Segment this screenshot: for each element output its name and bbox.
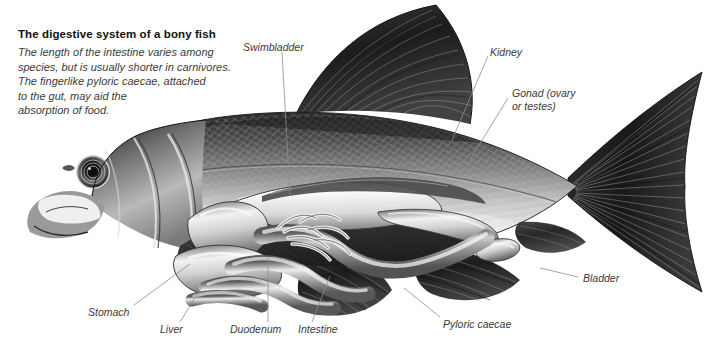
label-swimbladder: Swimbladder — [243, 41, 304, 54]
label-bladder: Bladder — [583, 272, 619, 285]
leader-swimbladder — [282, 52, 290, 196]
figure-description: The length of the intestine varies among… — [18, 45, 248, 118]
label-intestine: Intestine — [298, 323, 338, 336]
label-pyloric-caecae: Pyloric caecae — [443, 318, 511, 331]
leader-intestine — [312, 276, 330, 322]
description-line-1: The length of the intestine varies among — [18, 45, 248, 60]
leader-kidney — [452, 56, 488, 140]
description-line-3: The fingerlike pyloric caecae, attached — [18, 74, 248, 89]
leader-pyloric-caecae — [404, 288, 440, 317]
leader-gonad — [470, 98, 508, 160]
figure-title: The digestive system of a bony fish — [18, 27, 248, 41]
description-line-2: species, but is usually shorter in carni… — [18, 60, 248, 75]
leader-bladder — [540, 268, 578, 277]
label-liver: Liver — [160, 323, 183, 336]
description-line-5: absorption of food. — [18, 103, 248, 118]
description-line-4: to the gut, may aid the — [18, 89, 248, 104]
label-stomach: Stomach — [88, 306, 129, 319]
label-kidney: Kidney — [490, 46, 522, 59]
figure-canvas: The digestive system of a bony fish The … — [0, 0, 717, 356]
label-gonad-line2: or testes) — [512, 100, 592, 113]
label-gonad: Gonad (ovary or testes) — [512, 87, 592, 112]
label-duodenum: Duodenum — [230, 323, 281, 336]
label-gonad-line1: Gonad (ovary — [512, 87, 592, 100]
caption-block: The digestive system of a bony fish The … — [18, 27, 248, 118]
leader-stomach — [134, 264, 190, 305]
leader-liver — [180, 280, 206, 322]
